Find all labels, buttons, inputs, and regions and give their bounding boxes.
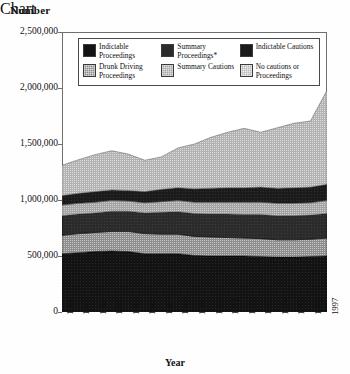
legend-swatch-icon bbox=[240, 64, 253, 77]
x-tick-label: 1995 bbox=[297, 298, 306, 315]
y-tick-mark bbox=[58, 32, 62, 33]
y-tick-label: 2,500,000 bbox=[20, 27, 58, 37]
x-tick-label: 1984 bbox=[115, 298, 124, 315]
legend-label: Indictable Proceedings bbox=[99, 43, 159, 60]
x-tick-label: 1987 bbox=[165, 298, 174, 315]
y-tick-label: 500,000 bbox=[27, 251, 58, 261]
x-tick-label: 1989 bbox=[198, 298, 207, 315]
x-tick-label: 1981 bbox=[66, 298, 75, 315]
legend-item: Summary Cautions bbox=[161, 63, 237, 80]
y-tick-mark bbox=[58, 144, 62, 145]
legend-swatch-icon bbox=[161, 44, 174, 57]
legend-item: Summary Proceedings* bbox=[161, 43, 237, 60]
x-axis-title: Year bbox=[0, 357, 350, 368]
x-tick-label: 1992 bbox=[248, 298, 257, 315]
legend-item: Drunk Driving Proceedings bbox=[83, 63, 159, 80]
legend-item: Indictable Proceedings bbox=[83, 43, 159, 60]
legend-swatch-icon bbox=[240, 44, 253, 57]
y-tick-mark bbox=[58, 312, 62, 313]
legend-swatch-icon bbox=[161, 64, 174, 77]
x-tick-label: 1996 bbox=[314, 298, 323, 315]
series-area bbox=[62, 90, 327, 195]
y-tick-mark bbox=[58, 200, 62, 201]
x-tick-label: 1983 bbox=[99, 298, 108, 315]
x-tick-label: 1990 bbox=[215, 298, 224, 315]
legend-item: Indictable Cautions bbox=[240, 43, 316, 60]
legend-item: No cautions or Proceedings bbox=[240, 63, 316, 80]
legend-label: No cautions or Proceedings bbox=[256, 63, 316, 80]
legend-label: Summary Cautions bbox=[177, 63, 234, 72]
x-tick-label: 1982 bbox=[82, 298, 91, 315]
legend-swatch-icon bbox=[83, 44, 96, 57]
legend-label: Indictable Cautions bbox=[256, 43, 314, 52]
y-tick-mark bbox=[58, 88, 62, 89]
x-tick-label: 1993 bbox=[264, 298, 273, 315]
y-tick-mark bbox=[58, 256, 62, 257]
legend-swatch-icon bbox=[83, 64, 96, 77]
x-tick-label: 1997 bbox=[331, 298, 340, 315]
y-tick-label: 1,500,000 bbox=[20, 139, 58, 149]
y-axis-title: Number bbox=[10, 4, 50, 16]
stacked-area-chart: Number bbox=[0, 0, 350, 374]
legend-label: Summary Proceedings* bbox=[177, 43, 237, 60]
x-tick-label: 1994 bbox=[281, 298, 290, 315]
chart-legend: Indictable ProceedingsSummary Proceeding… bbox=[78, 38, 320, 86]
x-tick-label: 1986 bbox=[148, 298, 157, 315]
x-tick-label: 1985 bbox=[132, 298, 141, 315]
y-tick-label: 1,000,000 bbox=[20, 195, 58, 205]
x-tick-label: 1988 bbox=[181, 298, 190, 315]
legend-label: Drunk Driving Proceedings bbox=[99, 63, 159, 80]
y-tick-label: 2,000,000 bbox=[20, 83, 58, 93]
x-tick-label: 1991 bbox=[231, 298, 240, 315]
